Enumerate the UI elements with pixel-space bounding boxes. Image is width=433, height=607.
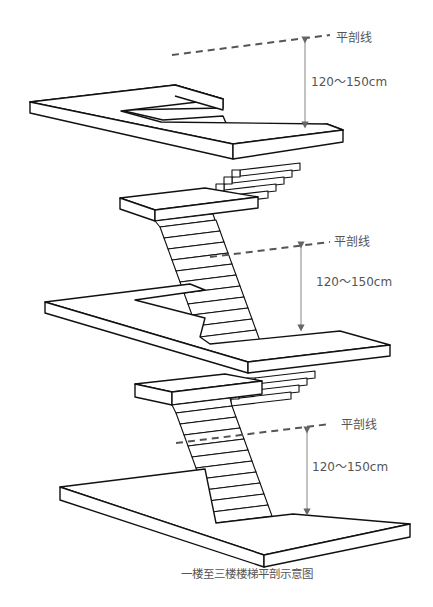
dimension-label-top: 120～150cm xyxy=(311,72,387,89)
section-line-label-bottom: 平剖线 xyxy=(341,415,377,432)
dimension-label-middle: 120～150cm xyxy=(316,272,392,289)
upper-landing xyxy=(120,188,258,221)
diagram-caption: 一楼至三楼楼梯平剖示意图 xyxy=(181,565,313,581)
dimension-label-bottom: 120～150cm xyxy=(312,457,388,474)
staircase-diagram xyxy=(0,0,433,607)
section-line-label-middle: 平剖线 xyxy=(334,232,370,249)
section-line-label-top: 平剖线 xyxy=(336,28,372,45)
third-floor-slab xyxy=(30,85,343,159)
section-line-top xyxy=(172,35,330,125)
